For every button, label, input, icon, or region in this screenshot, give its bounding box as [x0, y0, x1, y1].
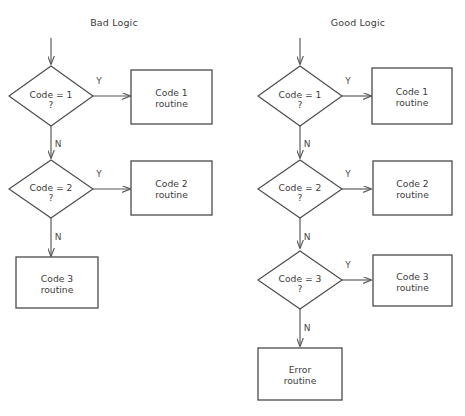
box-code-2-routine-line1: Code 2 [155, 178, 187, 189]
flowchart-svg: Bad LogicCode = 1?YNCode 1routineCode = … [0, 0, 465, 416]
yes-branch-label-1: Y [344, 169, 351, 179]
box-code-2-routine-line2: routine [396, 189, 429, 200]
no-branch-label-2: N [304, 323, 311, 333]
box-code-2-routine-line2: routine [155, 189, 188, 200]
yes-branch-label-0: Y [95, 76, 102, 86]
box-code-1-routine-line1: Code 1 [396, 86, 428, 97]
box-code-2-routine-line1: Code 2 [396, 178, 428, 189]
decision-code-2-label: Code = 2 [279, 182, 322, 193]
chart-title-good-logic: Good Logic [331, 17, 385, 28]
flowchart-canvas: Bad LogicCode = 1?YNCode 1routineCode = … [0, 0, 465, 416]
box-error-routine-line1: Error [289, 364, 312, 375]
box-code-3-routine-line1: Code 3 [41, 273, 73, 284]
decision-code-1-label: Code = 1 [30, 89, 73, 100]
yes-branch-label-0: Y [344, 76, 351, 86]
box-code-3-routine-line2: routine [41, 284, 74, 295]
yes-branch-label-2: Y [344, 260, 351, 270]
box-error-routine-line2: routine [284, 375, 317, 386]
no-branch-label-0: N [304, 139, 311, 149]
flowchart-good-logic: Good LogicCode = 1?YNCode 1routineCode =… [258, 17, 452, 400]
box-code-1-routine-line2: routine [396, 97, 429, 108]
decision-code-2-question-mark: ? [49, 192, 54, 203]
yes-branch-label-1: Y [95, 169, 102, 179]
box-code-1-routine-line2: routine [155, 98, 188, 109]
flowchart-bad-logic: Bad LogicCode = 1?YNCode 1routineCode = … [9, 17, 212, 308]
box-code-3-routine-line2: routine [396, 282, 429, 293]
chart-title-bad-logic: Bad Logic [90, 17, 138, 28]
decision-code-1-question-mark: ? [298, 99, 303, 110]
box-code-1-routine-line1: Code 1 [155, 87, 187, 98]
decision-code-1-label: Code = 1 [279, 89, 322, 100]
decision-code-3-question-mark: ? [298, 283, 303, 294]
decision-code-2-question-mark: ? [298, 192, 303, 203]
box-code-3-routine-line1: Code 3 [396, 271, 428, 282]
no-branch-label-0: N [55, 139, 62, 149]
no-branch-label-1: N [304, 232, 311, 242]
decision-code-3-label: Code = 3 [279, 273, 322, 284]
decision-code-1-question-mark: ? [49, 99, 54, 110]
no-branch-label-1: N [55, 232, 62, 242]
decision-code-2-label: Code = 2 [30, 182, 73, 193]
